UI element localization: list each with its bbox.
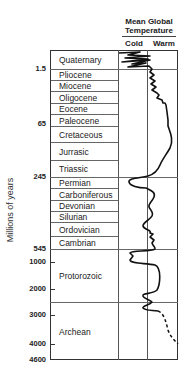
temperature-curve — [0, 0, 189, 383]
